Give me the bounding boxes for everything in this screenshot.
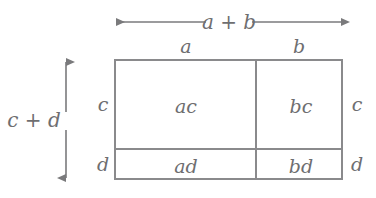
column-label-b: b	[293, 37, 305, 56]
area-model-grid: ac bc ad bd	[114, 59, 343, 180]
row-label-d-right: d	[351, 155, 363, 174]
vertical-divider	[255, 61, 257, 178]
column-label-a: a	[180, 37, 191, 56]
cell-bd: bd	[289, 157, 313, 176]
row-label-d-left: d	[97, 155, 109, 174]
horizontal-divider	[116, 148, 341, 150]
row-label-c-left: c	[98, 95, 109, 114]
cell-ad: ad	[174, 157, 198, 176]
diagram-canvas: a + b a b c + d c d c d ac bc ad bd	[0, 0, 376, 198]
top-dimension-label: a + b	[202, 12, 256, 32]
row-label-c-right: c	[352, 95, 363, 114]
cell-ac: ac	[175, 97, 197, 116]
left-dimension-label: c + d	[7, 110, 60, 130]
cell-bc: bc	[290, 97, 313, 116]
